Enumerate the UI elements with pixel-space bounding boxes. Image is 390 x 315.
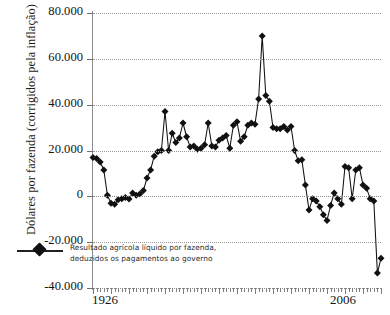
data-point-marker — [302, 181, 309, 188]
y-axis-title: Dólares por fazenda (corrigidos pela inf… — [24, 0, 39, 255]
gridline — [93, 13, 381, 14]
x-tick-mark — [122, 288, 123, 292]
data-point-marker — [255, 95, 262, 102]
data-point-marker — [316, 203, 323, 210]
x-tick-mark — [323, 288, 324, 292]
x-tick-mark — [237, 288, 238, 294]
x-tick-mark — [327, 288, 328, 294]
x-tick-mark — [277, 288, 278, 292]
y-tick-label: 80.000 — [0, 4, 83, 19]
data-point-marker — [338, 201, 345, 208]
data-point-marker — [100, 166, 107, 173]
x-tick-mark — [356, 288, 357, 292]
x-tick-mark — [147, 288, 148, 294]
x-tick-mark — [305, 288, 306, 292]
x-tick-mark — [165, 288, 166, 294]
x-tick-mark — [230, 288, 231, 292]
x-tick-mark — [187, 288, 188, 292]
data-point-marker — [262, 92, 269, 99]
x-tick-mark — [313, 288, 314, 292]
x-tick-mark — [284, 288, 285, 292]
x-tick-mark — [143, 288, 144, 292]
legend-label-line1: Resultado agrícola líquido por fazenda, — [70, 243, 216, 252]
x-tick-mark — [295, 288, 296, 292]
gridline — [93, 151, 381, 152]
x-tick-mark — [151, 288, 152, 292]
data-point-marker — [104, 192, 111, 199]
y-tick-label: -40.000 — [0, 279, 83, 294]
x-tick-mark — [266, 288, 267, 292]
x-tick-mark — [215, 288, 216, 292]
y-tick-label: 20.000 — [0, 142, 83, 157]
gridline — [93, 196, 381, 197]
x-tick-mark — [302, 288, 303, 292]
x-tick-mark — [197, 288, 198, 292]
x-tick-mark — [309, 288, 310, 294]
x-tick-mark — [273, 288, 274, 294]
x-tick-mark — [341, 288, 342, 292]
x-axis-end-label: 2006 — [330, 292, 356, 308]
data-point-marker — [327, 202, 334, 209]
y-tick-label: 40.000 — [0, 96, 83, 111]
x-tick-mark — [172, 288, 173, 292]
x-tick-mark — [201, 288, 202, 294]
x-tick-mark — [129, 288, 130, 294]
x-tick-mark — [320, 288, 321, 292]
x-tick-mark — [176, 288, 177, 292]
gridline — [93, 59, 381, 60]
x-tick-mark — [255, 288, 256, 294]
x-tick-mark — [223, 288, 224, 292]
x-axis-start-label: 1926 — [92, 292, 118, 308]
x-tick-mark — [259, 288, 260, 292]
x-tick-mark — [205, 288, 206, 292]
x-tick-mark — [334, 288, 335, 292]
x-tick-mark — [179, 288, 180, 292]
y-tick-label: 0 — [0, 187, 83, 202]
x-tick-mark — [140, 288, 141, 292]
x-tick-mark — [169, 288, 170, 292]
data-point-marker — [144, 175, 151, 182]
x-tick-mark — [244, 288, 245, 292]
x-tick-mark — [125, 288, 126, 292]
x-tick-mark — [190, 288, 191, 292]
x-tick-mark — [194, 288, 195, 292]
x-tick-mark — [370, 288, 371, 292]
y-tick-label: 60.000 — [0, 50, 83, 65]
data-point-marker — [180, 120, 187, 127]
x-tick-mark — [363, 288, 364, 294]
data-point-marker — [169, 130, 176, 137]
data-point-marker — [374, 270, 381, 277]
x-tick-mark — [158, 288, 159, 292]
x-tick-mark — [219, 288, 220, 294]
data-point-marker — [205, 120, 212, 127]
x-tick-mark — [208, 288, 209, 292]
y-tick-mark — [87, 105, 93, 106]
x-tick-mark — [104, 288, 105, 292]
x-tick-mark — [377, 288, 378, 292]
x-tick-mark — [367, 288, 368, 292]
x-tick-mark — [248, 288, 249, 292]
legend-diamond-marker-icon — [17, 244, 63, 257]
y-tick-mark — [87, 13, 93, 14]
legend-label-line2: deduzidos os pagamentos ao governo — [70, 254, 213, 263]
gridline — [93, 105, 381, 106]
x-tick-mark — [183, 288, 184, 294]
data-point-marker — [162, 108, 169, 115]
y-tick-mark — [87, 59, 93, 60]
x-tick-mark — [241, 288, 242, 292]
x-tick-mark — [316, 288, 317, 292]
x-tick-mark — [115, 288, 116, 292]
chart-legend: Resultado agrícola líquido por fazenda, … — [17, 243, 216, 264]
data-point-marker — [324, 217, 331, 224]
x-tick-mark — [133, 288, 134, 292]
x-tick-mark — [97, 288, 98, 292]
x-tick-mark — [212, 288, 213, 292]
x-tick-mark — [352, 288, 353, 292]
x-tick-mark — [298, 288, 299, 292]
x-tick-mark — [226, 288, 227, 292]
x-tick-mark — [107, 288, 108, 292]
x-tick-mark — [280, 288, 281, 292]
x-tick-mark — [269, 288, 270, 292]
x-tick-mark — [349, 288, 350, 292]
legend-label: Resultado agrícola líquido por fazenda, … — [70, 243, 216, 264]
